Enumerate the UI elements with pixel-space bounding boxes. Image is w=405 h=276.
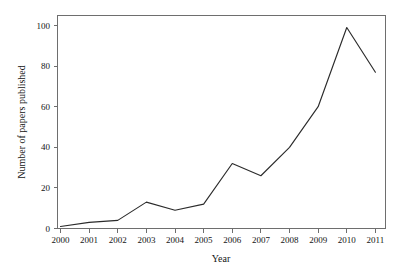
y-tick-label-40: 40 — [41, 142, 51, 152]
x-tick-label-2003: 2003 — [137, 235, 156, 245]
x-tick-label-2007: 2007 — [252, 235, 271, 245]
x-tick-label-2005: 2005 — [195, 235, 214, 245]
y-tick-label-80: 80 — [41, 61, 51, 71]
y-tick-label-0: 0 — [46, 224, 51, 234]
x-tick-label-2011: 2011 — [367, 235, 385, 245]
x-tick-label-2001: 2001 — [80, 235, 98, 245]
x-axis-title: Year — [212, 253, 231, 264]
y-axis-title: Number of papers published — [16, 65, 27, 179]
x-tick-label-2009: 2009 — [309, 235, 328, 245]
x-tick-label-2008: 2008 — [281, 235, 300, 245]
chart-figure: 0 20 40 60 80 100 2000 2001 2002 — [0, 0, 405, 276]
x-tick-label-2002: 2002 — [109, 235, 127, 245]
y-tick-label-60: 60 — [41, 102, 51, 112]
x-tick-label-2000: 2000 — [52, 235, 71, 245]
x-tick-label-2004: 2004 — [166, 235, 185, 245]
y-tick-label-100: 100 — [37, 21, 51, 31]
line-chart: 0 20 40 60 80 100 2000 2001 2002 — [0, 0, 405, 276]
x-tick-label-2010: 2010 — [338, 235, 357, 245]
x-tick-label-2006: 2006 — [223, 235, 242, 245]
y-tick-label-20: 20 — [41, 183, 51, 193]
